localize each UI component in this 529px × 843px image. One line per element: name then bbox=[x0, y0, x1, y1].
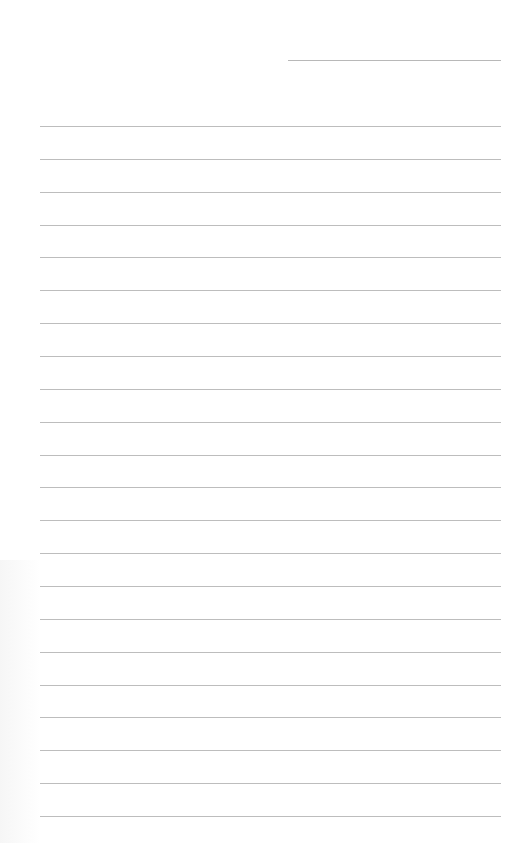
ruled-line bbox=[40, 717, 501, 718]
ruled-line bbox=[40, 553, 501, 554]
ruled-line bbox=[40, 586, 501, 587]
ruled-line bbox=[40, 422, 501, 423]
ruled-line bbox=[40, 487, 501, 488]
ruled-line bbox=[40, 652, 501, 653]
ruled-line bbox=[40, 323, 501, 324]
ruled-line bbox=[40, 816, 501, 817]
ruled-line bbox=[40, 750, 501, 751]
ruled-line bbox=[40, 520, 501, 521]
ruled-line bbox=[40, 783, 501, 784]
ruled-line bbox=[40, 257, 501, 258]
ruled-line bbox=[40, 619, 501, 620]
ruled-line bbox=[40, 290, 501, 291]
ruled-line bbox=[40, 685, 501, 686]
ruled-line bbox=[40, 126, 501, 127]
ruled-line bbox=[40, 389, 501, 390]
header-name-line bbox=[288, 60, 501, 61]
ruled-line bbox=[40, 356, 501, 357]
ruled-line bbox=[40, 455, 501, 456]
ruled-line bbox=[40, 225, 501, 226]
lined-paper-page bbox=[0, 0, 529, 843]
ruled-line bbox=[40, 159, 501, 160]
page-shadow bbox=[0, 560, 40, 843]
ruled-line bbox=[40, 192, 501, 193]
